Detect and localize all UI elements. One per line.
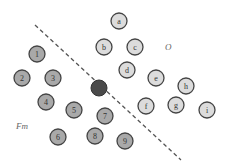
node-label: e xyxy=(154,74,158,83)
node-e: e xyxy=(148,70,164,86)
node-label: a xyxy=(117,17,121,26)
node-7: 7 xyxy=(97,108,113,124)
node-8: 8 xyxy=(87,128,103,144)
node-label: g xyxy=(174,101,178,110)
node-label: 8 xyxy=(93,132,97,141)
node-3: 3 xyxy=(45,70,61,86)
node-6: 6 xyxy=(50,129,66,145)
diagram-canvas: OFm 123456789 abcdefghi xyxy=(0,0,229,167)
node-label: 7 xyxy=(103,112,107,121)
node-a: a xyxy=(111,13,127,29)
node-g: g xyxy=(168,97,184,113)
right-node-group: abcdefghi xyxy=(96,13,215,118)
node-label: f xyxy=(145,102,148,111)
node-9: 9 xyxy=(117,133,133,149)
node-h: h xyxy=(178,78,194,94)
region-label-o: O xyxy=(165,42,172,52)
node-d: d xyxy=(119,62,135,78)
node-5: 5 xyxy=(66,102,82,118)
node-2: 2 xyxy=(14,70,30,86)
node-label: h xyxy=(184,82,188,91)
pivot-node xyxy=(91,80,107,96)
node-label: b xyxy=(102,43,106,52)
node-label: 5 xyxy=(72,106,76,115)
node-label: 6 xyxy=(56,133,60,142)
node-f: f xyxy=(138,98,154,114)
node-label: 2 xyxy=(20,74,24,83)
node-label: 3 xyxy=(51,74,55,83)
node-c: c xyxy=(127,39,143,55)
node-label: 9 xyxy=(123,137,127,146)
node-label: c xyxy=(133,43,137,52)
node-i: i xyxy=(199,102,215,118)
node-label: d xyxy=(125,66,129,75)
left-node-group: 123456789 xyxy=(14,46,133,149)
node-label: 4 xyxy=(44,98,48,107)
node-4: 4 xyxy=(38,94,54,110)
region-label-fm: Fm xyxy=(15,121,28,131)
node-label: 1 xyxy=(35,50,39,59)
node-1: 1 xyxy=(29,46,45,62)
node-b: b xyxy=(96,39,112,55)
